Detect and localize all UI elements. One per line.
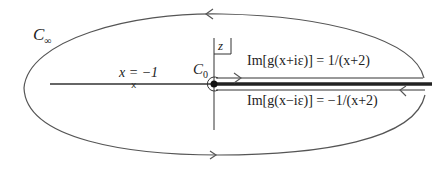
pole-marker-icon: x — [131, 80, 137, 90]
c-zero-letter: C — [193, 61, 203, 77]
contour-svg: x — [0, 0, 447, 174]
c-infinity-subscript: ∞ — [44, 35, 51, 46]
z-plane-label: z — [218, 39, 223, 52]
lower-edge-label: Im[g(x−iε)] = −1/(x+2) — [247, 94, 378, 108]
origin-point — [211, 81, 218, 88]
contour-diagram: x C∞ C0 x = −1 z Im[g(x+iε)] = 1/(x+2) I… — [0, 0, 447, 174]
c-infinity-label: C∞ — [33, 26, 51, 43]
lower-edge-arrow-icon — [400, 86, 406, 96]
x-equals-label: x = −1 — [119, 66, 158, 80]
upper-edge-label: Im[g(x+iε)] = 1/(x+2) — [247, 54, 370, 68]
c-infinity-letter: C — [33, 25, 44, 44]
outer-contour-upper-arc — [24, 14, 424, 88]
c-zero-label: C0 — [193, 62, 208, 77]
c-zero-subscript: 0 — [203, 69, 208, 80]
